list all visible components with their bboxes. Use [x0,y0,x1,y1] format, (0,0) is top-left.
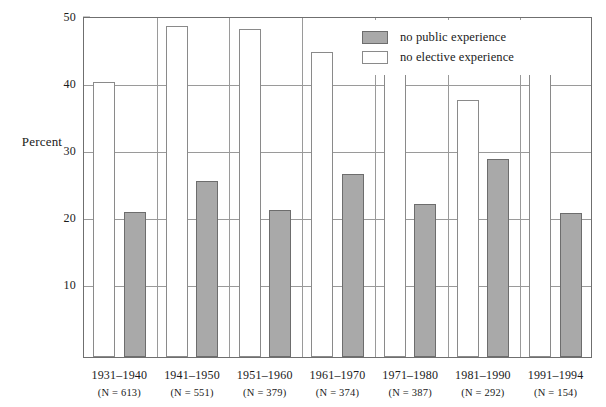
legend-swatch-public [362,31,388,44]
y-axis-tick-label: 10 [50,277,76,292]
x-axis-label-period: 1961–1970 [301,368,374,383]
gridline [84,85,591,86]
x-axis-label-count: (N = 374) [301,386,374,399]
gridline [84,286,591,287]
bar-public [269,210,291,357]
bar-elective [239,29,261,357]
x-axis-label-count: (N = 154) [519,386,592,399]
x-axis-label-count: (N = 387) [374,386,447,399]
x-axis-label-count: (N = 292) [447,386,520,399]
x-axis-label: 1991–1994(N = 154) [519,368,592,399]
x-axis-label-period: 1971–1980 [374,368,447,383]
category-divider [157,18,158,357]
bar-public [124,212,146,357]
legend-item: no elective experience [362,47,582,67]
x-axis-label-count: (N = 551) [156,386,229,399]
bar-public [560,213,582,357]
bar-chart: Percent 1020304050 no public experiencen… [0,0,606,407]
x-axis-label: 1951–1960(N = 379) [228,368,301,399]
bar-public [196,181,218,357]
x-axis-label-period: 1931–1940 [83,368,156,383]
x-axis-label: 1961–1970(N = 374) [301,368,374,399]
x-axis-label-period: 1951–1960 [228,368,301,383]
bar-public [487,159,509,357]
bar-elective [311,52,333,357]
bar-elective [384,71,406,357]
y-axis-tick-label: 50 [50,10,76,25]
bar-public [414,204,436,357]
y-axis-tick-label: 20 [50,210,76,225]
bar-public [342,174,364,357]
x-axis-label: 1981–1990(N = 292) [447,368,520,399]
bar-elective [529,39,551,357]
y-axis-tick-label: 30 [50,143,76,158]
bar-elective [457,100,479,357]
legend-label: no elective experience [400,50,514,65]
x-axis-label-period: 1991–1994 [519,368,592,383]
x-axis-label: 1971–1980(N = 387) [374,368,447,399]
category-divider [302,18,303,357]
x-axis-label: 1941–1950(N = 551) [156,368,229,399]
legend-label: no public experience [400,30,506,45]
plot-area: no public experienceno elective experien… [83,17,592,358]
bar-elective [166,26,188,357]
legend-swatch-elective [362,51,388,64]
chart-legend: no public experienceno elective experien… [353,20,591,75]
x-axis-label-period: 1981–1990 [447,368,520,383]
legend-item: no public experience [362,27,582,47]
x-axis-label-period: 1941–1950 [156,368,229,383]
gridline [84,152,591,153]
gridline [84,219,591,220]
x-axis-label: 1931–1940(N = 613) [83,368,156,399]
bar-elective [93,82,115,357]
x-axis-label-count: (N = 379) [228,386,301,399]
y-axis-tick-label: 40 [50,76,76,91]
x-axis-label-count: (N = 613) [83,386,156,399]
category-divider [229,18,230,357]
